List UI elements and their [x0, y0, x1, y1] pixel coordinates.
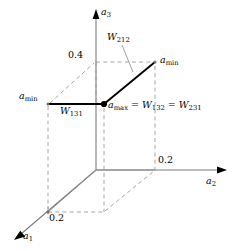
arrowhead-a2 [217, 167, 227, 174]
leader-line-w212 [122, 45, 133, 72]
label-w212: W212 [107, 32, 130, 42]
equals-sign-1: = [128, 99, 142, 110]
label-w131: W131 [60, 106, 83, 116]
box-edge-bottom-left [48, 170, 96, 212]
equals-sign-2: = [165, 99, 179, 110]
axis-label-a2: a2 [206, 176, 216, 186]
figure-container: a3 a2 a1 0.4 0.2 0.2 W212 W131 amin amin… [0, 0, 236, 251]
vertex-dot-amax [101, 101, 107, 107]
vertex-dot-amin-left [47, 103, 50, 106]
tick-label-a2: 0.2 [158, 155, 173, 165]
dashed-top-left-diagonal [50, 63, 94, 103]
axis-label-a3: a3 [101, 7, 111, 17]
label-amin-left: amin [19, 91, 38, 101]
dashed-bottom-right-diagonal [105, 171, 154, 211]
arrowhead-a3 [93, 9, 100, 19]
label-amax-equation: amax = W132 = W231 [108, 100, 202, 110]
tick-label-a3: 0.4 [68, 50, 83, 60]
axis-label-a1: a1 [23, 231, 33, 241]
tick-label-a1: 0.2 [49, 213, 64, 223]
vertex-dot-amin-right [154, 61, 157, 64]
segment-w212 [104, 62, 155, 104]
label-amin-right: amin [160, 55, 179, 65]
